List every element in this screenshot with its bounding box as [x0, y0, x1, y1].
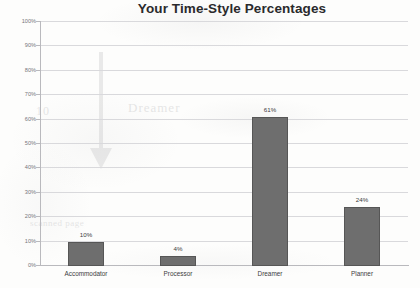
y-axis-tick-label: 60% — [2, 116, 36, 122]
x-axis-category-label: Processor — [164, 270, 193, 277]
y-axis-tick-mark — [36, 265, 40, 266]
y-axis-tick-label: 20% — [2, 213, 36, 219]
y-axis-tick-mark — [36, 192, 40, 193]
bar[interactable] — [68, 242, 104, 266]
x-axis-category-label: Accommodator — [65, 270, 108, 277]
bar[interactable] — [252, 117, 288, 266]
y-axis-tick-mark — [36, 45, 40, 46]
y-axis-tick-label: 10% — [2, 238, 36, 244]
chart-title: Your Time-Style Percentages — [0, 1, 420, 16]
y-axis-tick-label: 80% — [2, 67, 36, 73]
y-axis-tick-label: 30% — [2, 189, 36, 195]
x-axis-category-label: Dreamer — [258, 270, 283, 277]
chart-page: Dreamer 10 scanned page Your Time-Style … — [0, 0, 420, 288]
y-axis-tick-labels: 100%90%80%70%60%50%40%30%20%10%0% — [0, 0, 36, 288]
y-axis-tick-label: 50% — [2, 140, 36, 146]
y-axis-tick-label: 100% — [2, 18, 36, 24]
y-axis-tick-label: 70% — [2, 91, 36, 97]
y-axis-tick-label: 40% — [2, 164, 36, 170]
y-axis-tick-label: 90% — [2, 42, 36, 48]
y-axis-tick-mark — [36, 167, 40, 168]
y-axis-tick-mark — [36, 70, 40, 71]
y-axis-tick-mark — [36, 216, 40, 217]
y-axis-tick-mark — [36, 241, 40, 242]
bars-layer — [40, 21, 409, 266]
y-axis-tick-label: 0% — [2, 262, 36, 268]
x-axis-category-label: Planner — [351, 270, 373, 277]
bar[interactable] — [344, 207, 380, 266]
y-axis-tick-mark — [36, 94, 40, 95]
y-axis-tick-mark — [36, 21, 40, 22]
y-axis-tick-mark — [36, 143, 40, 144]
bar[interactable] — [160, 256, 196, 266]
y-axis-tick-mark — [36, 119, 40, 120]
